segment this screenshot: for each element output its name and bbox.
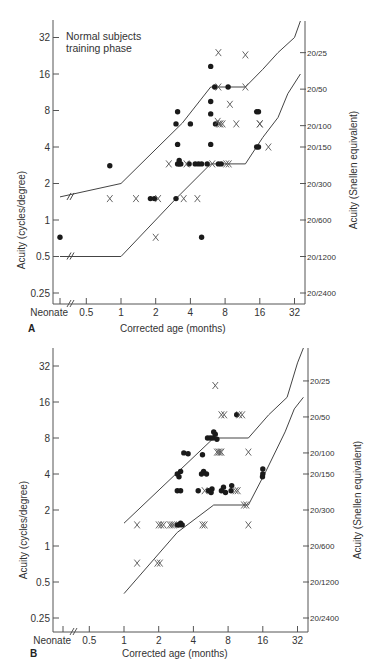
panel-b-data-points <box>134 382 265 567</box>
x-tick-label: 4 <box>188 307 194 318</box>
data-point-dot <box>180 522 185 527</box>
panel-b-y-axis-label-right: Acuity (Snellen equivalent) <box>352 441 363 559</box>
y-tick-label: 1 <box>44 541 50 552</box>
data-point-dot <box>175 142 180 147</box>
panel-b-bound-lines <box>124 348 303 594</box>
data-point-dot <box>208 142 213 147</box>
data-point-dot <box>57 235 62 240</box>
data-point-cross <box>257 120 263 127</box>
x-tick-label: 0.5 <box>79 307 93 318</box>
panel-b-chart: 0.250.51248163220/240020/120020/60020/30… <box>18 348 363 659</box>
data-point-cross <box>181 195 187 202</box>
snellen-tick-label: 20/50 <box>307 85 328 94</box>
data-point-dot <box>196 488 201 493</box>
data-point-dot <box>209 486 214 491</box>
data-point-cross <box>216 49 222 56</box>
lower-bound-line <box>124 397 303 593</box>
data-point-dot <box>208 64 213 69</box>
data-point-dot <box>107 163 112 168</box>
x-tick-label: 2 <box>153 307 159 318</box>
data-point-dot <box>205 161 210 166</box>
x-tick-label: 1 <box>121 635 127 646</box>
data-point-cross <box>134 521 140 528</box>
snellen-tick-label: 20/25 <box>310 377 331 386</box>
data-point-dot <box>223 490 228 495</box>
snellen-tick-label: 20/300 <box>307 180 332 189</box>
data-point-dot <box>178 488 183 493</box>
snellen-tick-label: 20/50 <box>310 413 331 422</box>
snellen-tick-label: 20/150 <box>307 143 332 152</box>
snellen-tick-label: 20/300 <box>310 506 335 515</box>
data-point-dot <box>200 452 205 457</box>
data-point-dot <box>199 235 204 240</box>
snellen-tick-label: 20/100 <box>307 122 332 131</box>
snellen-tick-label: 20/2400 <box>307 289 336 298</box>
data-point-dot <box>214 437 219 442</box>
data-point-dot <box>204 471 209 476</box>
data-point-dot <box>228 488 233 493</box>
panel-a-x-axis-label: Corrected age (months) <box>120 323 226 334</box>
data-point-cross <box>246 521 252 528</box>
data-point-cross <box>243 51 249 58</box>
data-point-dot <box>260 474 265 479</box>
x-tick-label: 32 <box>292 635 304 646</box>
data-point-dot <box>188 121 193 126</box>
y-tick-label: 8 <box>44 433 50 444</box>
x-tick-label: Neonate <box>30 307 68 318</box>
panel-a-axes: 0.250.51248163220/240020/120020/60020/30… <box>30 20 336 318</box>
line-break-mark <box>67 193 74 200</box>
x-tick-label: 32 <box>289 307 301 318</box>
panel-a-annotation-line1: Normal subjects <box>66 30 141 42</box>
y-tick-label: 16 <box>39 397 51 408</box>
panel-b-label: B <box>30 648 37 659</box>
y-tick-label: 0.25 <box>31 288 51 299</box>
data-point-dot <box>219 161 224 166</box>
data-point-cross <box>246 449 252 456</box>
data-point-cross <box>107 195 113 202</box>
snellen-tick-label: 20/600 <box>310 542 335 551</box>
data-point-dot <box>173 121 178 126</box>
data-point-dot <box>211 429 216 434</box>
x-tick-label: 8 <box>225 635 231 646</box>
panel-a-data-points <box>57 49 271 241</box>
y-tick-label: 4 <box>44 469 50 480</box>
data-point-dot <box>199 161 204 166</box>
snellen-tick-label: 20/600 <box>307 216 332 225</box>
figure-canvas: 0.250.51248163220/240020/120020/60020/30… <box>0 0 374 669</box>
data-point-cross <box>134 560 140 567</box>
data-point-dot <box>173 196 178 201</box>
data-point-dot <box>256 109 261 114</box>
y-tick-label: 4 <box>44 142 50 153</box>
data-point-cross <box>227 101 233 108</box>
data-point-cross <box>133 195 139 202</box>
snellen-tick-label: 20/150 <box>310 470 335 479</box>
x-tick-label: 0.5 <box>82 635 96 646</box>
data-point-dot <box>221 485 226 490</box>
x-tick-label: 16 <box>257 635 269 646</box>
snellen-tick-label: 20/2400 <box>310 614 339 623</box>
x-tick-label: 2 <box>156 635 162 646</box>
snellen-tick-label: 20/1200 <box>310 578 339 587</box>
data-point-dot <box>208 99 213 104</box>
snellen-tick-label: 20/1200 <box>307 253 336 262</box>
y-tick-label: 32 <box>39 32 51 43</box>
x-tick-label: Neonate <box>33 635 71 646</box>
y-tick-label: 16 <box>39 69 51 80</box>
data-point-dot <box>186 161 191 166</box>
x-tick-label: 1 <box>118 307 124 318</box>
data-point-dot <box>175 109 180 114</box>
data-point-dot <box>175 471 180 476</box>
panel-a-y-axis-label-right: Acuity (Snellen equivalent) <box>348 111 359 229</box>
data-point-cross <box>166 160 172 167</box>
panel-a-annotation-line2: training phase <box>66 42 132 54</box>
y-tick-label: 0.25 <box>31 613 51 624</box>
data-point-dot <box>260 466 265 471</box>
data-point-dot <box>256 144 261 149</box>
data-point-cross <box>221 411 227 418</box>
panel-a-bound-lines <box>60 21 300 260</box>
y-tick-label: 0.5 <box>36 577 50 588</box>
data-point-dot <box>185 451 190 456</box>
y-tick-label: 32 <box>39 361 51 372</box>
panel-a-y-axis-label: Acuity (cycles/degree) <box>16 171 27 269</box>
data-point-cross <box>234 120 240 127</box>
